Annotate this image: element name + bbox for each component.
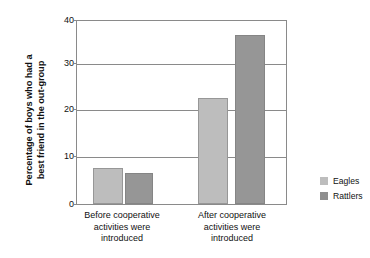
y-tick-label-20: 20 <box>52 104 74 114</box>
y-axis-title-line-2: best friend in the out-group <box>35 61 47 180</box>
x-label-after-line-2: activities were <box>172 222 292 234</box>
y-tick-label-10: 10 <box>52 151 74 161</box>
bar-chart: Percentage of boys who had a best friend… <box>0 0 370 258</box>
legend-item-eagles: Eagles <box>320 174 370 187</box>
legend-swatch-eagles-icon <box>320 177 328 185</box>
bar-rattlers-after <box>235 35 265 204</box>
y-axis-title-line-1: Percentage of boys who had a <box>23 55 35 186</box>
x-label-after-line-3: introduced <box>172 233 292 245</box>
legend: Eagles Rattlers <box>320 174 370 204</box>
y-tick-label-40: 40 <box>52 15 74 25</box>
bar-rattlers-before <box>125 173 153 204</box>
legend-label-rattlers: Rattlers <box>333 191 363 201</box>
plot-area <box>76 20 287 205</box>
legend-swatch-rattlers-icon <box>320 192 328 200</box>
x-label-before-line-1: Before cooperative <box>62 210 182 222</box>
y-axis-title: Percentage of boys who had a best friend… <box>18 22 52 218</box>
y-tick-label-0: 0 <box>52 199 74 209</box>
x-label-after-line-1: After cooperative <box>172 210 292 222</box>
x-label-before-line-2: activities were <box>62 222 182 234</box>
y-tick-label-30: 30 <box>52 58 74 68</box>
x-axis-label-before: Before cooperative activities were intro… <box>62 210 182 245</box>
x-label-before-line-3: introduced <box>62 233 182 245</box>
bar-eagles-before <box>93 168 123 204</box>
legend-label-eagles: Eagles <box>333 176 359 186</box>
legend-item-rattlers: Rattlers <box>320 189 370 202</box>
bar-eagles-after <box>198 98 228 204</box>
x-axis-label-after: After cooperative activities were introd… <box>172 210 292 245</box>
